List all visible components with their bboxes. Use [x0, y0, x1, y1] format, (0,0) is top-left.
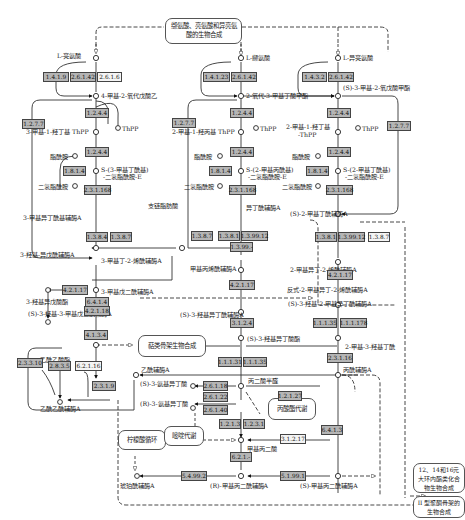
compound-dihydrolipoamide-2[interactable]: 二氢脂酰胺 [184, 183, 214, 190]
enzyme-2-3-1-168-a[interactable]: 2.3.1.168 [84, 185, 111, 195]
enzyme-6-2-1-dash[interactable]: 6.2.1.- [230, 452, 252, 462]
compound-3-hydroxyisobutyrate[interactable]: (S)-3-羟基异丁酸酯 [247, 335, 300, 342]
enzyme-4-2-1-17-c[interactable]: 4.2.1.17 [327, 270, 353, 280]
enzyme-1-2-1-3[interactable]: 1.2.1.3 [219, 419, 241, 429]
compound-s-methylmalonyl-coa[interactable]: (S)-甲基丙二酰辅酶A [300, 482, 358, 489]
enzyme-1-8-1-4-c[interactable]: 1.8.1.4 [306, 166, 329, 176]
enzyme-1-4-1-23[interactable]: 1.4.1.23 [203, 72, 230, 82]
enzyme-1-1-1-178[interactable]: 1.1.1.178 [340, 318, 367, 328]
enzyme-1-3-99-dash[interactable]: 1.3.99.- [230, 242, 253, 252]
compound-3-hydroxyisovalerate[interactable]: 3-羟基异戊酸酯 [26, 298, 68, 305]
enzyme-1-3-8-7-a[interactable]: 1.3.8.7 [110, 232, 132, 242]
compound-thpp-3[interactable]: ThPP [362, 125, 378, 132]
enzyme-6-2-1-16[interactable]: 6.2.1.16 [75, 361, 102, 371]
enzyme-2-3-1-16[interactable]: 2.3.1.16 [327, 353, 353, 363]
compound-4-methyl-2-oxopentanoate[interactable]: 4-甲基-2-氧代戊酸乙 [101, 92, 157, 99]
enzyme-1-3-8-4[interactable]: 1.3.8.4 [86, 232, 108, 242]
enzyme-2-3-1-168-c[interactable]: 2.3.1.168 [326, 185, 353, 195]
enzyme-1-1-1-31[interactable]: 1.1.1.31 [218, 357, 242, 367]
enzyme-1-4-1-9[interactable]: 1.4.1.9 [43, 72, 69, 82]
compound-lipoamide-2[interactable]: 脂酰胺 [194, 153, 212, 160]
compound-s-3-aminoisobutanoate[interactable]: (S)-3-氨基异丁酸 [140, 380, 187, 387]
enzyme-5-1-99-1[interactable]: 5.1.99.1 [280, 471, 306, 481]
enzyme-1-2-4-4-d[interactable]: 1.2.4.4 [230, 147, 254, 157]
compound-3-methyl-2-oxopentanoate[interactable]: (S)-3-甲基-2-氧戊酸甲酯 [343, 84, 410, 91]
enzyme-2-6-1-42-b[interactable]: 2.6.1.42 [231, 72, 257, 82]
enzyme-1-3-8-1-a[interactable]: 1.3.8.1 [218, 231, 240, 241]
compound-lipoamide-1[interactable]: 脂酰胺 [50, 153, 68, 160]
compound-2-methyl-3-hydroxybutyryl[interactable]: 2-甲基-3-羟基丁酰 [345, 343, 395, 350]
compound-r-3-aminoisobutanoate[interactable]: (R)-3-氨基异丁酸 [140, 400, 188, 407]
enzyme-1-8-1-4-a[interactable]: 1.8.1.4 [63, 166, 86, 176]
enzyme-4-2-1-17-b[interactable]: 4.2.1.17 [229, 280, 255, 290]
enzyme-2-6-1-18[interactable]: 2.6.1.18 [203, 381, 228, 391]
compound-3-methylglutaconyl-coa[interactable]: 3-甲基戊二酰辅酶A [101, 288, 154, 295]
compound-valine[interactable]: L-缬氨酸 [246, 54, 270, 61]
pathway-type2-polyketide[interactable]: II 型聚酮骨架的生物合成 [413, 496, 465, 518]
compound-lipoamide-3[interactable]: 脂酰胺 [292, 153, 310, 160]
compound-r-methylmalonyl-coa[interactable]: (R)-甲基丙二酰辅酶A [210, 482, 268, 489]
compound-thpp-1[interactable]: ThPP [122, 125, 138, 132]
enzyme-4-1-3-4[interactable]: 4.1.3.4 [84, 330, 108, 340]
compound-s-3-methylbutanoyl[interactable]: S-(3-甲基丁酰基) [101, 166, 148, 173]
compound-s-2-methylbutanoyl[interactable]: S-(2-甲基丁酰基) [343, 166, 390, 173]
enzyme-1-3-8-1-b[interactable]: 1.3.8.1 [315, 232, 337, 242]
compound-leucine[interactable]: L-亮氨酸 [57, 52, 81, 59]
compound-2-methyl-1-hydroxybutyl-thpp[interactable]: 2-甲基-1-羟丁基 [286, 123, 330, 130]
enzyme-1-2-4-4-e[interactable]: 1.2.4.4 [327, 108, 351, 118]
enzyme-2-3-3-10[interactable]: 2.3.3.10 [17, 358, 43, 368]
compound-branched-fatty-acid[interactable]: 支链脂肪酸 [148, 202, 178, 209]
compound-s-2-methylpropanoyl[interactable]: S-(2-甲基丙酰基) [246, 166, 293, 173]
compound-methylmalonate[interactable]: 甲基丙二酸 [247, 445, 277, 452]
enzyme-1-2-7-7-a[interactable]: 1.2.7.7 [22, 119, 45, 129]
enzyme-1-2-7-7-c[interactable]: 1.2.7.7 [387, 121, 411, 131]
enzyme-1-4-3-2[interactable]: 1.4.3.2 [302, 72, 327, 82]
compound-thpp-2[interactable]: ThPP [260, 125, 276, 132]
enzyme-1-1-1-35-b[interactable]: 1.1.1.35 [313, 318, 337, 328]
enzyme-1-3-8-7-c[interactable]: 1.3.8.7 [368, 232, 390, 242]
enzyme-2-3-1-9[interactable]: 2.3.1.9 [92, 381, 116, 391]
compound-2-methyl-1-hydroxypropyl-thpp[interactable]: 2-甲基-1-羟丙基 ThPP [172, 128, 235, 135]
compound-acetoacetyl-coa[interactable]: 乙酰乙酰辅酶A [40, 405, 80, 412]
enzyme-1-3-99-12-b[interactable]: 1.3.99.12 [338, 232, 365, 242]
enzyme-1-2-4-4-f[interactable]: 1.2.4.4 [327, 147, 351, 157]
pathway-pyrimidine[interactable]: 嘧啶代谢 [164, 426, 204, 446]
enzyme-1-3-8-7-b[interactable]: 1.3.8.7 [191, 231, 213, 241]
enzyme-2-6-1-40[interactable]: 2.6.1.40 [203, 405, 228, 415]
pathway-tca-cycle[interactable]: 柠檬酸循环 [118, 430, 166, 450]
compound-2-oxo-3-methylbutanoate[interactable]: 2-氧代-3-甲基丁酸甲酯 [246, 92, 308, 99]
compound-tiglyl-coa[interactable]: 反式-2-甲基异丁-2-烯酰辅酶A [287, 286, 368, 293]
enzyme-2-3-1-168-b[interactable]: 2.3.1.168 [229, 185, 256, 195]
compound-3-hydroxyisobutyryl-coa[interactable]: (S)-3-羟基异丁酰辅酶A [180, 311, 244, 318]
enzyme-1-2-4-4-b[interactable]: 1.2.4.4 [85, 147, 109, 157]
enzyme-1-8-1-4-b[interactable]: 1.8.1.4 [209, 166, 232, 176]
compound-dihydrolipoamide-1[interactable]: 二氢脂酰胺 [38, 183, 68, 190]
enzyme-1-2-3-1[interactable]: 1.2.3.1 [243, 419, 265, 429]
enzyme-1-2-4-4-a[interactable]: 1.2.4.4 [85, 108, 109, 118]
compound-succinyl-coa[interactable]: 琥珀酰辅酶A [120, 482, 154, 489]
enzyme-1-3-99-12-a[interactable]: 1.3.99.12 [241, 231, 268, 241]
pathway-macrolide[interactable]: 12、14和16元大环内酯类化合物生物合成 [413, 463, 465, 493]
compound-dihydrolipoamide-3[interactable]: 二氢脂酰胺 [282, 183, 312, 190]
pathway-bcaa-biosynthesis[interactable]: 缬氨酸、亮氨酸和异亮氨酸的生物合成 [165, 18, 242, 44]
enzyme-1-2-1-27[interactable]: 1.2.1.27 [278, 391, 302, 401]
enzyme-4-2-1-18[interactable]: 4.2.1.18 [84, 306, 110, 316]
enzyme-2-6-1-42-a[interactable]: 2.6.1.42 [70, 72, 96, 82]
compound-acetyl-coa[interactable]: 乙酰辅酶A [141, 366, 169, 373]
compound-2-methylbutanoyl-coa[interactable]: (S)-2-甲基丁酰辅酶A [290, 210, 348, 217]
enzyme-2-6-1-22[interactable]: 2.6.1.22 [203, 392, 228, 402]
enzyme-4-2-1-17-a[interactable]: 4.2.1.17 [62, 285, 88, 295]
enzyme-1-2-4-4-c[interactable]: 1.2.4.4 [230, 108, 254, 118]
pathway-terpenoid[interactable]: 萜类骨架生物合成 [138, 335, 206, 357]
enzyme-2-8-3-5[interactable]: 2.8.3.5 [48, 361, 71, 371]
compound-propanoyl-coa[interactable]: 丙酰辅酶A [343, 366, 371, 373]
enzyme-1-2-7-7-b[interactable]: 1.2.7.7 [172, 118, 196, 128]
enzyme-5-4-99-2[interactable]: 5.4.99.2 [181, 471, 207, 481]
compound-3-methyl-1-hydroxybutyl-thpp[interactable]: 3-甲基-1-羟丁基 ThPP [26, 128, 89, 135]
compound-isobutyryl-coa[interactable]: 异丁酰辅酶A [246, 204, 280, 211]
enzyme-3-1-2-17[interactable]: 3.1.2.17 [280, 434, 306, 444]
enzyme-3-1-2-4[interactable]: 3.1.2.4 [230, 318, 254, 328]
pathway-propanoate[interactable]: 丙酸酯代谢 [268, 398, 316, 420]
enzyme-2-6-1-6[interactable]: 2.6.1.6 [97, 72, 122, 82]
compound-3-methylcrotonyl-coa[interactable]: 3-甲基丁-2-烯酰辅酶A [101, 257, 162, 264]
